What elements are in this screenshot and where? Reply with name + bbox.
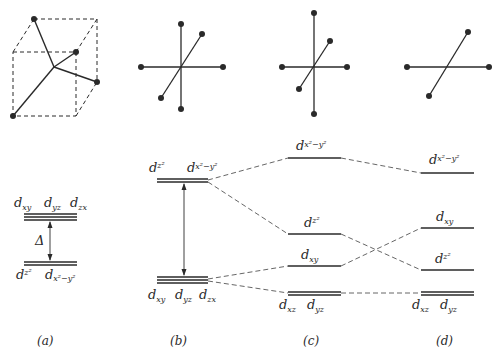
svg-text:dz²: dz² [304,215,320,230]
level-a-lower-double [24,262,77,265]
svg-text:dxz: dxz [412,297,430,314]
labels-b-upper: dz² dx²−y² [149,160,217,175]
labels-a-lower: dz² dx²−y² [16,267,75,283]
labels-c: dx²−y² dz² dxy dxz dyz [279,138,326,314]
level-c-dxz-dyz [288,292,341,295]
elongated-octahedral-geometry [279,10,350,117]
svg-text:dxy: dxy [14,195,32,212]
tetrahedral-geometry [10,16,100,119]
svg-text:dxy: dxy [301,247,319,264]
octahedral-geometry [138,21,226,112]
svg-text:dz²: dz² [149,160,165,175]
svg-text:dx²−y²: dx²−y² [429,152,459,167]
svg-text:dx²−y²: dx²−y² [45,267,75,283]
level-b-upper-double [157,179,208,182]
labels-a-upper: dxy dyz dzx [14,195,88,212]
caption-d: (d) [436,334,453,348]
level-d-dxz-dyz [421,292,474,295]
delta-label-a: Δ [34,233,44,248]
energy-levels [24,158,474,295]
svg-text:dx²−y²: dx²−y² [296,138,326,153]
svg-text:dzx: dzx [199,287,217,304]
level-b-lower-triple [157,277,208,283]
svg-text:dxy: dxy [148,287,166,304]
svg-text:dyz: dyz [307,297,325,314]
svg-text:dz²: dz² [435,251,451,266]
svg-text:dyz: dyz [44,195,62,212]
svg-text:dyz: dyz [440,297,458,314]
svg-text:dx²−y²: dx²−y² [187,160,217,175]
delta-arrow-a [48,221,53,261]
svg-text:dz²: dz² [16,267,32,282]
caption-a: (a) [37,334,54,348]
caption-c: (c) [303,334,319,348]
labels-d: dx²−y² dxy dz² dxz dyz [412,152,459,314]
caption-b: (b) [170,334,187,348]
crystal-field-diagram: dxy dyz dzx Δ dz² dx²−y² dz² dx²−y² dxy … [0,0,500,355]
level-a-upper-triple [24,214,77,220]
svg-text:dyz: dyz [175,287,193,304]
labels-b-lower: dxy dyz dzx [148,287,217,304]
delta-arrow-b [182,183,187,276]
svg-text:dxz: dxz [279,297,297,314]
svg-text:dzx: dzx [70,195,88,212]
svg-text:dxy: dxy [436,209,454,226]
square-planar-geometry [404,29,492,99]
correlation-lines [208,158,421,293]
